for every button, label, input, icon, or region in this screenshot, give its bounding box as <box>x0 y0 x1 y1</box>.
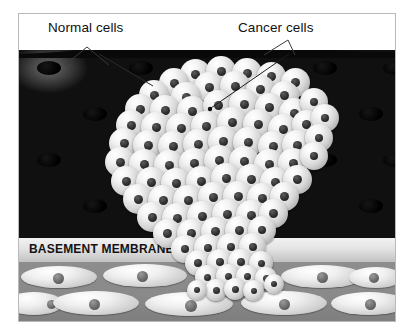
cancer-cells-leader <box>263 38 297 56</box>
label-cancer-cells: Cancer cells <box>238 20 313 35</box>
tumor-cell-nucleus <box>244 273 251 280</box>
tumor-cell-nucleus <box>247 175 256 184</box>
tumor-cell <box>264 274 284 294</box>
tumor-cell-nucleus <box>310 152 318 160</box>
tumor-cell-nucleus <box>310 98 318 106</box>
tumor-cell-nucleus <box>280 192 289 201</box>
tumor-cell-nucleus <box>213 287 220 294</box>
tumor-cell <box>243 280 264 301</box>
normal-cells-leader <box>63 44 111 66</box>
tumor-cell-nucleus <box>163 229 172 238</box>
tumor-cell-nucleus <box>234 192 243 201</box>
tumor-cell-nucleus <box>204 244 212 252</box>
tumor-cell-nucleus <box>258 226 266 234</box>
label-normal-cells: Normal cells <box>48 20 123 35</box>
tumor-cell-nucleus <box>232 286 239 293</box>
tumor-cell-nucleus <box>249 243 257 251</box>
tumor-cell-nucleus <box>122 177 131 186</box>
tumor-cell-nucleus <box>315 134 323 142</box>
tumor-cell-nucleus <box>258 260 265 267</box>
tumor-cell-nucleus <box>293 175 302 184</box>
tumor-cell-nucleus <box>222 174 231 183</box>
tumor-cell-nucleus <box>148 213 157 222</box>
tumor-cell-nucleus <box>271 281 277 287</box>
tumor-cell-nucleus <box>269 209 278 218</box>
cancer-invasion-illustration: BASEMENT MEMBRANE Normal cells Cancer ce… <box>0 0 409 334</box>
tumor-cell-nucleus <box>228 118 237 127</box>
tumor-cell-nucleus <box>134 195 143 204</box>
tumor-cell-nucleus <box>209 193 218 202</box>
cancer-cells-pointer <box>201 52 291 114</box>
tumor-cell-nucleus <box>194 287 200 293</box>
tumor-cell-nucleus <box>254 120 263 129</box>
tumor-cell-nucleus <box>251 288 257 294</box>
tumor-cell <box>187 280 207 300</box>
tumor-cell-nucleus <box>181 245 189 253</box>
tumor-cell-nucleus <box>147 178 156 187</box>
tumor-cell-nucleus <box>321 114 329 122</box>
illustration-plate: BASEMENT MEMBRANE Normal cells Cancer ce… <box>18 13 396 322</box>
